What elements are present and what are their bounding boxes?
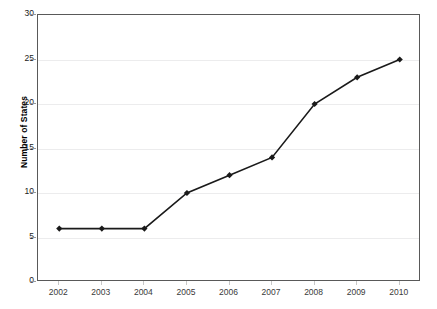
x-tick-label: 2003 (81, 288, 121, 297)
data-point-marker (56, 226, 62, 232)
x-tick-mark (58, 281, 59, 285)
x-tick-mark (356, 281, 357, 285)
x-tick-mark (229, 281, 230, 285)
y-tick-mark (31, 103, 36, 104)
x-tick-mark (143, 281, 144, 285)
data-point-marker (226, 172, 232, 178)
plot-area (37, 14, 420, 281)
x-tick-label: 2009 (336, 288, 376, 297)
x-tick-mark (314, 281, 315, 285)
x-tick-label: 2007 (251, 288, 291, 297)
x-tick-mark (101, 281, 102, 285)
y-tick-mark (31, 59, 36, 60)
y-tick-mark (31, 237, 36, 238)
y-tick-mark (31, 192, 36, 193)
y-tick-mark (31, 281, 36, 282)
series-polyline (59, 60, 399, 229)
x-tick-label: 2005 (166, 288, 206, 297)
x-tick-label: 2010 (379, 288, 419, 297)
y-tick-mark (31, 14, 36, 15)
x-tick-mark (186, 281, 187, 285)
data-point-marker (99, 226, 105, 232)
series-markers (56, 56, 403, 231)
data-point-marker (397, 56, 403, 62)
data-series-line (38, 15, 421, 282)
x-tick-label: 2006 (209, 288, 249, 297)
x-tick-label: 2008 (294, 288, 334, 297)
x-tick-label: 2002 (38, 288, 78, 297)
x-tick-mark (399, 281, 400, 285)
x-tick-label: 2004 (123, 288, 163, 297)
y-axis-tick-labels: 051015202530 (8, 0, 34, 309)
line-chart: Number of States 051015202530 2002200320… (0, 0, 437, 309)
y-tick-mark (31, 148, 36, 149)
x-tick-mark (271, 281, 272, 285)
